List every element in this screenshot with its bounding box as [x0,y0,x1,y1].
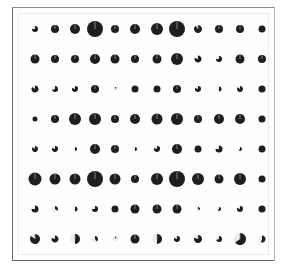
pie-glyph [259,176,266,183]
pie-glyph [173,85,181,93]
pie-glyph [171,113,183,125]
pie-glyph [153,55,162,64]
pie-glyph [259,146,266,153]
pie-glyph [113,237,118,242]
pie-glyph [132,86,139,93]
pie-glyph [237,86,243,92]
pie-glyph [217,207,221,211]
pie-glyph [87,171,103,187]
pie-glyph [111,115,119,123]
pie-glyph [169,171,185,187]
pie-glyph [131,175,139,183]
pie-glyph [169,21,185,37]
pie-glyph [73,147,77,151]
pie-glyph [258,55,266,63]
pie-glyph [52,86,58,92]
pie-glyph [87,21,103,37]
pie-glyph [112,206,119,213]
pie-glyph [32,146,38,152]
pie-glyph [216,56,222,62]
pie-glyph [92,236,98,242]
pie-glyph [151,23,163,35]
pie-glyph [32,26,38,32]
pie-glyph [196,207,200,211]
pie-glyph [32,206,39,213]
pie-glyph [29,173,42,186]
pie-glyph [154,86,161,93]
pie-glyph [215,175,224,184]
pie-glyph [71,55,79,63]
pie-glyph [89,113,101,125]
pie-glyph [111,55,120,64]
pie-glyph [110,174,121,185]
pie-glyph [131,55,139,63]
pie-glyph [130,114,140,124]
pie-glyph [174,236,180,242]
pie-glyph [171,53,183,65]
pie-glyph [236,25,244,33]
pie-glyph [73,207,78,212]
pie-glyph [111,145,119,153]
pie-glyph [214,114,224,124]
pie-glyph [173,205,182,214]
pie-glyph [51,25,59,33]
pie-glyph [237,206,243,212]
pie-glyph [216,146,223,153]
pie-glyph [238,147,242,151]
pie-glyph [194,115,202,123]
pie-glyph [50,174,61,185]
pie-glyph [152,234,162,244]
pie-glyph [259,116,266,123]
pie-glyph [33,117,38,122]
pie-glyph [51,115,59,123]
pie-glyph [194,56,201,63]
pie-glyph [131,235,140,244]
pie-glyph [51,55,59,63]
pie-glyph [51,236,58,243]
pie-glyph [111,25,119,33]
pie-glyph [153,205,162,214]
pie-glyph [133,147,137,151]
pie-glyph [194,235,202,243]
pie-glyph [259,26,266,33]
pie-glyph [216,236,222,242]
pie-glyph [32,86,39,93]
pie-glyph [154,146,160,152]
pie-glyph [151,173,163,185]
pie-glyph [69,113,81,125]
pie-glyph [172,144,182,154]
pie-glyph [90,54,100,64]
pie-glyph [131,205,140,214]
pie-glyph [195,86,201,92]
pie-glyph-grid [0,0,288,270]
pie-glyph [31,55,40,64]
pie-glyph [90,144,100,154]
pie-glyph [52,206,58,212]
pie-glyph [72,86,78,92]
pie-glyph [259,206,266,213]
pie-glyph [70,234,80,244]
pie-glyph [70,174,81,185]
pie-glyph [130,24,140,34]
pie-glyph [52,146,58,152]
pie-glyph [91,85,99,93]
pie-glyph [70,24,80,34]
pie-glyph [235,114,245,124]
pie-glyph [234,173,246,185]
pie-glyph [234,233,246,245]
pie-glyph [30,234,40,244]
pie-glyph [217,87,222,92]
pie-glyph [152,114,163,125]
pie-glyph [194,25,202,33]
pie-glyph [236,55,245,64]
pie-glyph [259,236,266,243]
pie-glyph [192,173,204,185]
pie-glyph [259,86,266,93]
pie-glyph [113,87,117,91]
pie-glyph [195,146,202,153]
pie-glyph [215,25,223,33]
pie-glyph [92,206,98,212]
